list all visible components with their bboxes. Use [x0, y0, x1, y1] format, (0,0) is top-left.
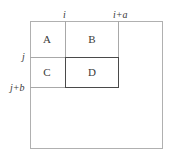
row-line-j-plus-b [30, 87, 66, 88]
cell-c-label: C [43, 67, 50, 78]
cell-b-label: B [88, 34, 95, 45]
row-marker-j: j [22, 52, 25, 62]
cell-d-label: D [88, 67, 96, 78]
column-marker-i: i [63, 10, 66, 20]
cell-a-label: A [43, 34, 51, 45]
column-marker-i-plus-a: i+a [113, 10, 128, 20]
row-marker-j-plus-b: j+b [10, 83, 25, 93]
